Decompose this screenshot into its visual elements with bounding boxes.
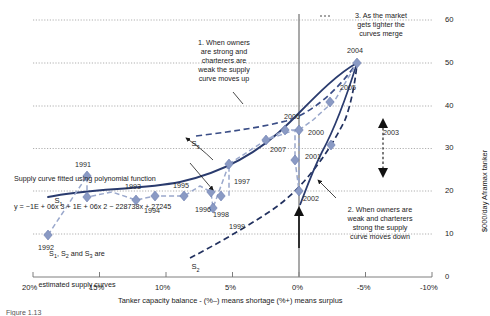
marker-2002: [295, 186, 303, 196]
annotation-1-line-2: are strong and: [178, 47, 270, 56]
annotation-1-line-5: curve moves up: [178, 74, 270, 83]
legend-line-1: S1, S2 and S3 are: [22, 249, 132, 262]
x-tick-0: 0%: [292, 283, 303, 292]
annotation-2-line-3: strong the supply: [330, 223, 430, 232]
point-label-1996: 1996: [195, 205, 211, 214]
y-tick-40: 40: [445, 101, 453, 110]
marker-1995: [180, 191, 188, 201]
annotation-2-line-2: weak and charterers: [330, 214, 430, 223]
note2-leader: [318, 180, 336, 198]
legend-are: are: [92, 249, 104, 258]
x-tick-neg10: -10%: [420, 283, 438, 292]
annotation-3-line-1: 3. As the market: [333, 11, 429, 20]
annotation-3: 3. As the market gets tighter the curves…: [333, 11, 429, 38]
point-label-2004: 2004: [347, 46, 363, 55]
curve-label-s2-sub: 2: [197, 267, 200, 273]
point-label-1997: 1997: [234, 177, 250, 186]
equation-line-2: y = −1E + 06x 3 + 1E + 06x 2 − 228738x +…: [14, 202, 171, 211]
y-tick-20: 20: [445, 186, 453, 195]
eqn-leader: [190, 163, 213, 190]
point-label-1995: 1995: [173, 181, 189, 190]
marker-2001: [291, 155, 299, 165]
point-label-2007: 2007: [270, 145, 286, 154]
y-axis-title: $000/day Aframax tanker: [480, 150, 489, 232]
marker-2004: [353, 58, 361, 68]
y-tick-60: 60: [445, 15, 453, 24]
y-tick-10: 10: [445, 229, 453, 238]
annotation-1-line-4: weak the supply: [178, 65, 270, 74]
point-label-2000: 2000: [308, 128, 324, 137]
marker-2007: [262, 135, 270, 145]
figure-caption: Figure 1.13: [6, 309, 41, 316]
marker-1998: [217, 191, 225, 201]
annotation-1: 1. When owners are strong and charterers…: [178, 38, 270, 83]
curve-label-s3: S3: [183, 130, 200, 159]
annotation-1-line-3: charterers are: [178, 56, 270, 65]
annotation-1-line-1: 1. When owners: [178, 38, 270, 47]
y-tick-50: 50: [445, 58, 453, 67]
axis-up-arrow: [294, 206, 304, 248]
marker-2005: [326, 97, 334, 107]
point-label-2005: 2005: [340, 83, 356, 92]
curve-label-s2: S2: [183, 253, 200, 282]
note1-leader: [233, 92, 243, 104]
y-tick-30: 30: [445, 143, 453, 152]
point-label-2003: 2003: [383, 128, 399, 137]
y-tick-0: 0: [445, 272, 449, 281]
x-axis-title: Tanker capacity balance - (%–) means sho…: [118, 296, 343, 305]
annotation-2-line-4: curve moves down: [330, 232, 430, 241]
annotation-3-line-2: gets tighter the: [333, 20, 429, 29]
curve-label-s3-sub: 3: [197, 144, 200, 150]
annotation-2-line-1: 2. When owners are: [330, 205, 430, 214]
marker-2000: [295, 125, 303, 135]
marker-2006: [281, 125, 289, 135]
point-label-2001: 2001: [305, 152, 321, 161]
x-tick-10: 10%: [155, 283, 170, 292]
marker-1996: [207, 187, 215, 197]
equation-line-1: Supply curve fitted using polynomial fun…: [14, 174, 171, 183]
legend-s3: and S: [69, 249, 90, 258]
legend-s2: , S: [57, 249, 66, 258]
legend-line-2: estimated supply curves: [22, 280, 132, 289]
point-label-2006: 2006: [284, 112, 300, 121]
point-label-2002: 2002: [303, 194, 319, 203]
supply-curves-legend: S1, S2 and S3 are estimated supply curve…: [22, 231, 132, 308]
x-tick-neg5: -5%: [357, 283, 371, 292]
range-arrow: [378, 118, 388, 178]
point-label-1999: 1999: [229, 222, 245, 231]
x-tick-5: 5%: [225, 283, 236, 292]
equation-note: Supply curve fitted using polynomial fun…: [14, 156, 171, 230]
annotation-3-line-3: curves merge: [333, 29, 429, 38]
chart-root: 60 50 40 30 20 10 0 20% 15% 10% 5% 0% -5…: [0, 0, 490, 316]
annotation-2: 2. When owners are weak and charterers s…: [330, 205, 430, 241]
point-label-1998: 1998: [213, 210, 229, 219]
